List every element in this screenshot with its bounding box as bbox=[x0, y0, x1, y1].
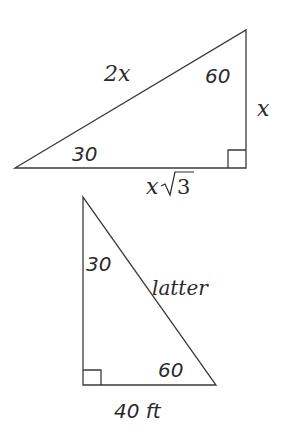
right-angle-marker bbox=[83, 370, 101, 385]
angle-60-label: 60 bbox=[205, 64, 230, 88]
diagram-canvas: 2x 60 x 30 x 3 30 latter 60 40 ft bbox=[0, 0, 283, 446]
reference-triangle-outline bbox=[15, 30, 246, 168]
angle-30-label: 30 bbox=[86, 252, 111, 276]
base-label: 40 ft bbox=[114, 399, 162, 423]
right-angle-marker bbox=[228, 150, 246, 168]
reference-triangle: 2x 60 x 30 x 3 bbox=[15, 30, 270, 199]
long-leg-label: x 3 bbox=[146, 172, 194, 199]
short-leg-label: x bbox=[257, 96, 270, 121]
hypotenuse-label: 2x bbox=[103, 61, 131, 86]
hypotenuse-label: latter bbox=[152, 276, 209, 300]
long-leg-label-radicand: 3 bbox=[177, 175, 190, 199]
angle-60-label: 60 bbox=[158, 358, 183, 382]
problem-triangle: 30 latter 60 40 ft bbox=[83, 197, 216, 423]
angle-30-label: 30 bbox=[72, 142, 97, 166]
long-leg-label-x: x bbox=[146, 174, 159, 199]
